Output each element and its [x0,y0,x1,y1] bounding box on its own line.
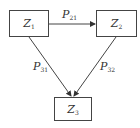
edge-label-p21: P21 [62,9,77,21]
node-z1: Z1 [9,10,49,37]
edge-label-p32: P32 [100,61,115,73]
node-z3-label: Z3 [67,103,78,116]
node-z3: Z3 [54,97,92,121]
node-z2-label: Z2 [111,17,122,30]
node-z2: Z2 [96,10,137,37]
node-z1-label: Z1 [23,17,34,30]
edge-label-p31: P31 [33,61,48,73]
